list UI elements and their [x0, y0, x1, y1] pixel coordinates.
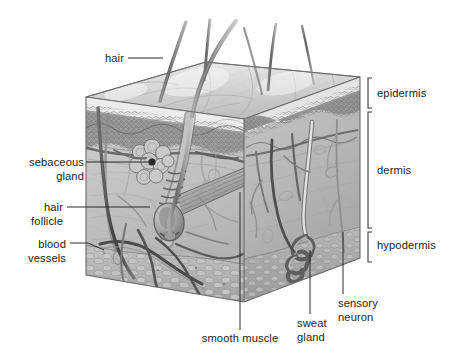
label-smooth-muscle: smooth muscle: [176, 331, 304, 345]
label-hypodermis: hypodermis: [377, 238, 453, 252]
figure-canvas: hair sebaceous gland hair follicle blood…: [0, 0, 454, 359]
label-dermis: dermis: [377, 163, 447, 177]
label-hair: hair: [78, 51, 124, 65]
layer-brackets: [368, 78, 372, 262]
label-sebaceous-gland: sebaceous gland: [0, 155, 84, 183]
label-sensory-neuron: sensory neuron: [338, 296, 408, 324]
bracket-epidermis: [368, 78, 372, 108]
label-blood-vessels: blood vessels: [0, 237, 66, 265]
bracket-hypodermis: [368, 232, 372, 262]
label-hair-follicle: hair follicle: [0, 200, 63, 228]
label-epidermis: epidermis: [377, 86, 453, 100]
bracket-dermis: [368, 112, 372, 228]
